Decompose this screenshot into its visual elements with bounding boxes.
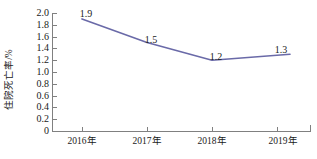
y-tick-label: 1.8: [24, 20, 49, 30]
y-axis-tick: [53, 60, 57, 61]
y-tick-label: 1.4: [24, 43, 49, 53]
line-chart: 住院死亡率/% 2.0 1.8 1.6 1.4 1.2 1.0 0.8 0.6 …: [0, 0, 317, 159]
y-axis-tick: [53, 131, 57, 132]
y-tick-label: 0.4: [24, 102, 49, 112]
series-polyline: [82, 19, 290, 60]
y-axis-tick: [53, 119, 57, 120]
data-point-label: 1.5: [145, 35, 158, 45]
y-axis-tick: [53, 13, 57, 14]
y-axis-tick: [53, 84, 57, 85]
x-axis-tick: [212, 127, 213, 131]
x-tick-label: 2017年: [133, 136, 162, 147]
y-axis-tick: [53, 72, 57, 73]
x-axis-line: [52, 131, 311, 132]
x-tick-label: 2019年: [269, 136, 298, 147]
x-tick-label: 2018年: [198, 136, 227, 147]
y-tick-label: 1.2: [24, 55, 49, 65]
data-point-label: 1.3: [275, 45, 288, 55]
y-tick-label: 1.0: [24, 67, 49, 77]
y-axis-tick-labels: 2.0 1.8 1.6 1.4 1.2 1.0 0.8 0.6 0.4 0.2 …: [24, 13, 49, 131]
x-axis-tick: [147, 127, 148, 131]
data-point-label: 1.2: [210, 52, 223, 62]
x-tick-label: 2016年: [68, 136, 97, 147]
y-axis-tick: [53, 107, 57, 108]
y-axis-tick: [53, 37, 57, 38]
y-axis-tick: [53, 25, 57, 26]
y-tick-label: 1.6: [24, 32, 49, 42]
y-tick-label: 0.2: [24, 114, 49, 124]
data-point-label: 1.9: [80, 9, 93, 19]
y-axis-tick: [53, 96, 57, 97]
x-axis-end-tick: [310, 125, 311, 131]
y-tick-label: 0.6: [24, 91, 49, 101]
y-tick-label: 0: [24, 126, 49, 136]
y-axis-title: 住院死亡率/%: [0, 0, 16, 159]
x-axis-tick: [82, 127, 83, 131]
y-tick-label: 2.0: [24, 8, 49, 18]
y-axis-tick: [53, 48, 57, 49]
x-axis-tick: [277, 127, 278, 131]
y-tick-label: 0.8: [24, 79, 49, 89]
